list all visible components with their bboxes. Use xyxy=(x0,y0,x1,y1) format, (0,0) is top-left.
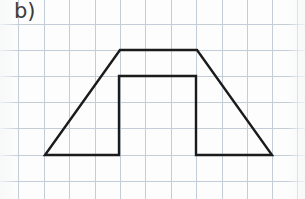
figure-label: b) xyxy=(14,1,36,22)
trapezoid-with-notch-outline xyxy=(45,50,272,155)
geometry-figure xyxy=(0,0,305,199)
worksheet-figure-page: b) xyxy=(0,0,305,199)
